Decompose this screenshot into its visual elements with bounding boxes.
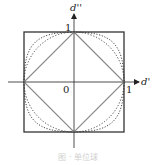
origin-label: 0 (63, 85, 69, 95)
x-axis-label: d' (141, 77, 150, 87)
norm-ball-diagram (0, 0, 156, 165)
x-tick-1: 1 (126, 85, 132, 95)
figure-caption: 图 · 单位球 (0, 151, 156, 162)
y-axis-label: d'' (70, 3, 82, 13)
y-tick-1: 1 (65, 23, 71, 33)
